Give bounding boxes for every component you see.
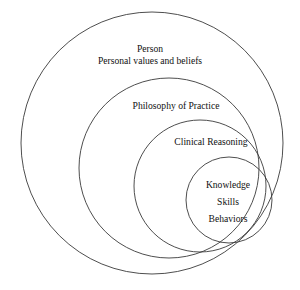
circle-core-competencies	[186, 157, 272, 243]
circle-philosophy-of-practice	[79, 78, 259, 258]
nested-circles-diagram: Person Personal values and beliefs Philo…	[0, 0, 300, 290]
circle-person	[21, 12, 283, 274]
circles-canvas	[0, 0, 300, 290]
